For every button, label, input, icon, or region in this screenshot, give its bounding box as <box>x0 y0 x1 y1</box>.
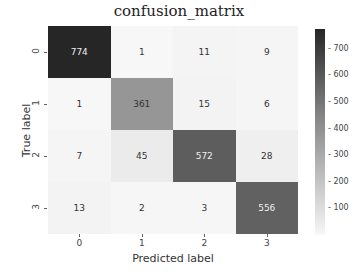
heatmap-cell: 1 <box>111 26 174 78</box>
colorbar-tick-label: - 100 <box>328 203 349 212</box>
heatmap-cell: 1 <box>48 78 111 130</box>
heatmap-cell: 2 <box>111 182 174 234</box>
colorbar-tick-label: - 300 <box>328 150 349 159</box>
heatmap-cell: 3 <box>173 182 236 234</box>
colorbar-tick-label: - 600 <box>328 70 349 79</box>
colorbar-tick-label: - 500 <box>328 97 349 106</box>
heatmap-cell: 28 <box>236 130 299 182</box>
heatmap-cell: 9 <box>236 26 299 78</box>
x-tick-mark <box>142 234 143 237</box>
x-tick-label: 3 <box>257 238 277 248</box>
y-tick-mark <box>44 156 47 157</box>
x-tick-label: 0 <box>69 238 89 248</box>
y-tick-label: 2 <box>31 152 41 158</box>
colorbar-tick-label: - 700 <box>328 44 349 53</box>
y-tick-label: 0 <box>31 48 41 54</box>
heatmap-cell: 361 <box>111 78 174 130</box>
heatmap-grid: 77411191361156745572281323556 <box>48 26 298 234</box>
x-tick-label: 2 <box>194 238 214 248</box>
heatmap-cell: 6 <box>236 78 299 130</box>
y-tick-label: 1 <box>31 100 41 106</box>
colorbar-tick-label: - 400 <box>328 124 349 133</box>
chart-title: confusion_matrix <box>0 2 358 20</box>
colorbar-tick-label: - 200 <box>328 177 349 186</box>
heatmap-cell: 556 <box>236 182 299 234</box>
heatmap-cell: 13 <box>48 182 111 234</box>
x-axis-label: Predicted label <box>48 252 298 265</box>
y-tick-mark <box>44 104 47 105</box>
y-tick-mark <box>44 52 47 53</box>
x-tick-mark <box>204 234 205 237</box>
heatmap-cell: 7 <box>48 130 111 182</box>
x-tick-mark <box>267 234 268 237</box>
heatmap-cell: 572 <box>173 130 236 182</box>
heatmap-cell: 11 <box>173 26 236 78</box>
y-tick-mark <box>44 208 47 209</box>
heatmap-cell: 15 <box>173 78 236 130</box>
x-tick-label: 1 <box>132 238 152 248</box>
x-tick-mark <box>79 234 80 237</box>
colorbar <box>315 29 325 235</box>
y-tick-label: 3 <box>31 204 41 210</box>
heatmap-cell: 774 <box>48 26 111 78</box>
heatmap-cell: 45 <box>111 130 174 182</box>
